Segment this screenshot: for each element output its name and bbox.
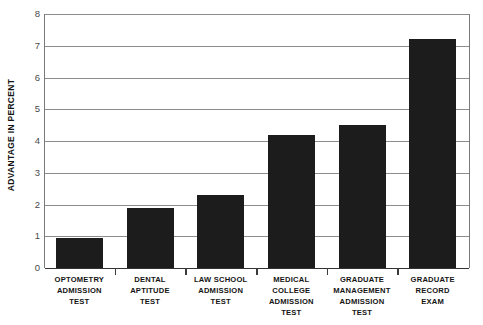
category-label-line: TEST	[44, 296, 115, 307]
category-label-line: MEDICAL	[256, 274, 327, 285]
bar[interactable]	[409, 39, 456, 268]
category-label-line: ADMISSION	[327, 296, 398, 307]
category-label-line: TEST	[327, 307, 398, 318]
y-tick-label-2: 2	[14, 200, 40, 210]
category-label-line: DENTAL	[115, 274, 186, 285]
category-label-line: RECORD	[397, 285, 468, 296]
bar[interactable]	[268, 135, 315, 268]
bar[interactable]	[127, 208, 174, 268]
bar-chart: ADVANTAGE IN PERCENT 876543210 OPTOMETRY…	[0, 0, 483, 325]
category-label-line: GRADUATE	[397, 274, 468, 285]
category-label-line: LAW SCHOOL	[185, 274, 256, 285]
category-label-line: OPTOMETRY	[44, 274, 115, 285]
y-tick-label-4: 4	[14, 136, 40, 146]
category-label-line: EXAM	[397, 296, 468, 307]
y-tick-label-0: 0	[14, 263, 40, 273]
bars-layer	[44, 14, 468, 268]
category-label-line: APTITUDE	[115, 285, 186, 296]
bar[interactable]	[56, 238, 103, 268]
category-label: GRADUATEMANAGEMENTADMISSIONTEST	[327, 274, 398, 318]
y-tick-label-8: 8	[14, 9, 40, 19]
bar[interactable]	[197, 195, 244, 268]
category-label-line: ADMISSION	[185, 285, 256, 296]
category-label: GRADUATERECORDEXAM	[397, 274, 468, 307]
category-label-line: TEST	[256, 307, 327, 318]
y-tick-label-1: 1	[14, 231, 40, 241]
category-label: OPTOMETRYADMISSIONTEST	[44, 274, 115, 307]
x-axis-category-labels: OPTOMETRYADMISSIONTESTDENTALAPTITUDETEST…	[44, 274, 468, 322]
category-label-line: ADMISSION	[256, 296, 327, 307]
y-tick-label-7: 7	[14, 41, 40, 51]
category-label: LAW SCHOOLADMISSIONTEST	[185, 274, 256, 307]
y-axis-tick-labels: 876543210	[10, 14, 40, 268]
category-label-line: COLLEGE	[256, 285, 327, 296]
category-label: DENTALAPTITUDETEST	[115, 274, 186, 307]
category-label-line: MANAGEMENT	[327, 285, 398, 296]
category-label-line: GRADUATE	[327, 274, 398, 285]
y-tick-label-3: 3	[14, 168, 40, 178]
category-label-line: TEST	[115, 296, 186, 307]
category-label: MEDICALCOLLEGEADMISSIONTEST	[256, 274, 327, 318]
category-label-line: TEST	[185, 296, 256, 307]
y-tick-label-6: 6	[14, 73, 40, 83]
category-label-line: ADMISSION	[44, 285, 115, 296]
bar[interactable]	[339, 125, 386, 268]
y-tick-label-5: 5	[14, 104, 40, 114]
